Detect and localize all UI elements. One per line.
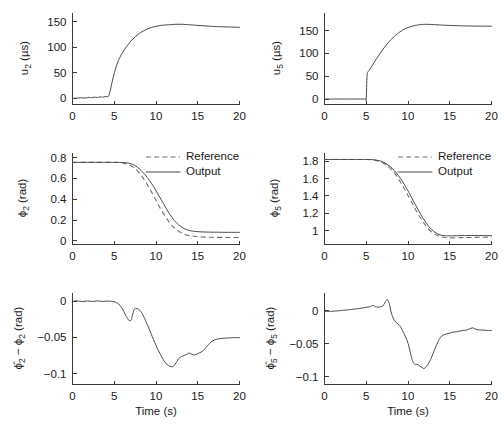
panel-err5-axes [325, 293, 492, 385]
y-ticklabel: 1.6 [303, 173, 319, 185]
panel-u2-curves [73, 24, 240, 98]
x-ticklabel: 15 [443, 110, 456, 122]
panel-phi5: 0510152011.21.41.61.8 ϕ5 (rad) Reference… [252, 144, 504, 276]
y-ticklabel: 0.4 [51, 193, 68, 205]
x-ticklabel: 5 [363, 110, 369, 122]
panel-err2: 051015200−0.05−0.1 ϕ̂2 − ϕ2 (rad) Time (… [0, 284, 252, 428]
panel-err2-svg: 051015200−0.05−0.1 ϕ̂2 − ϕ2 (rad) Time (… [0, 284, 252, 428]
x-ticklabel: 15 [443, 250, 456, 262]
x-ticklabel: 5 [111, 110, 117, 122]
axis-label-u2: u2 (µs) [18, 41, 33, 75]
y-ticklabel: 150 [299, 25, 318, 37]
y-ticklabel: 0 [312, 305, 318, 317]
legend-output-label: Output [438, 165, 473, 177]
panel-u5-ticklabels: 05101520050100150 [299, 25, 498, 122]
series-u5 [325, 24, 492, 100]
x-ticklabel: 10 [402, 390, 415, 402]
y-ticklabel: 1.4 [303, 190, 320, 202]
panel-u2-ticklabels: 05101520050100150 [47, 16, 246, 122]
x-ticklabel: 0 [69, 110, 75, 122]
y-ticklabel: 150 [47, 16, 66, 28]
y-ticklabel: −0.05 [289, 338, 318, 350]
axis-label-phi2: ϕ2 (rad) [16, 179, 31, 218]
series-u2 [73, 24, 240, 98]
x-ticklabel: 0 [69, 390, 75, 402]
panel-phi2-svg: 0510152000.20.40.60.8 ϕ2 (rad) Reference… [0, 144, 252, 276]
figure-canvas: 05101520050100150 u2 (µs) 05101520050100… [0, 0, 504, 428]
panel-err2-ticks [73, 301, 240, 384]
panel-u2-svg: 05101520050100150 u2 (µs) [0, 4, 252, 134]
x-ticklabel: 20 [233, 390, 246, 402]
x-ticklabel: 15 [191, 390, 204, 402]
x-ticklabel: 10 [150, 250, 163, 262]
series-error5 [325, 300, 492, 369]
axis-label-err2: ϕ̂2 − ϕ2 (rad) [12, 306, 27, 369]
panel-phi2: 0510152000.20.40.60.8 ϕ2 (rad) Reference… [0, 144, 252, 276]
x-ticklabel: 0 [321, 250, 327, 262]
panel-u5-curves [325, 24, 492, 100]
x-ticklabel: 5 [363, 250, 369, 262]
axis-label-time: Time (s) [135, 405, 177, 417]
axis-label-err5: ϕ̂5 − ϕ5 (rad) [264, 306, 279, 369]
panel-err5: 051015200−0.05−0.1 ϕ̂5 − ϕ5 (rad) Time (… [252, 284, 504, 428]
y-ticklabel: 1.8 [303, 155, 319, 167]
legend-reference-label: Reference [438, 150, 491, 162]
panel-u5: 05101520050100150 u5 (µs) [252, 4, 504, 134]
x-ticklabel: 15 [191, 250, 204, 262]
panel-err5-curves [325, 300, 492, 369]
panel-err2-ticklabels: 051015200−0.05−0.1 [37, 295, 246, 401]
x-ticklabel: 5 [111, 250, 117, 262]
panel-u2: 05101520050100150 u2 (µs) [0, 4, 252, 134]
x-ticklabel: 20 [233, 110, 246, 122]
axis-label-time: Time (s) [387, 405, 429, 417]
legend-phi5: Reference Output [398, 150, 491, 177]
axis-label-phi5: ϕ5 (rad) [268, 179, 283, 218]
x-ticklabel: 10 [150, 110, 163, 122]
x-ticklabel: 10 [150, 390, 163, 402]
legend-reference-label: Reference [186, 150, 239, 162]
x-ticklabel: 5 [363, 390, 369, 402]
x-ticklabel: 20 [485, 110, 498, 122]
x-ticklabel: 15 [443, 390, 456, 402]
y-ticklabel: 50 [54, 67, 67, 79]
series-error2 [73, 301, 240, 367]
y-ticklabel: 0.6 [51, 172, 67, 184]
y-ticklabel: −0.1 [44, 368, 67, 380]
y-ticklabel: 0 [312, 93, 318, 105]
panel-err2-axes [73, 293, 240, 385]
y-ticklabel: 1 [312, 225, 318, 237]
x-ticklabel: 10 [402, 110, 415, 122]
y-ticklabel: 100 [299, 47, 318, 59]
y-ticklabel: −0.1 [296, 371, 319, 383]
y-ticklabel: 0 [60, 92, 66, 104]
panel-err5-ticks [325, 311, 492, 385]
x-ticklabel: 20 [233, 250, 246, 262]
x-ticklabel: 20 [485, 250, 498, 262]
panel-err5-svg: 051015200−0.05−0.1 ϕ̂5 − ϕ5 (rad) Time (… [252, 284, 504, 428]
x-ticklabel: 5 [111, 390, 117, 402]
panel-u5-svg: 05101520050100150 u5 (µs) [252, 4, 504, 134]
legend-phi2: Reference Output [146, 150, 239, 177]
panel-u2-ticks [73, 22, 240, 105]
x-ticklabel: 0 [321, 390, 327, 402]
panel-phi5-svg: 0510152011.21.41.61.8 ϕ5 (rad) Reference… [252, 144, 504, 276]
y-ticklabel: 0.2 [51, 214, 67, 226]
y-ticklabel: 50 [306, 70, 319, 82]
x-ticklabel: 0 [321, 110, 327, 122]
x-ticklabel: 10 [402, 250, 415, 262]
x-ticklabel: 0 [69, 250, 75, 262]
panel-err2-curves [73, 301, 240, 367]
y-ticklabel: 0.8 [51, 152, 67, 164]
x-ticklabel: 15 [191, 110, 204, 122]
y-ticklabel: 1.2 [303, 207, 319, 219]
panel-u5-ticks [325, 31, 492, 105]
y-ticklabel: 0 [60, 235, 66, 247]
legend-output-label: Output [186, 165, 221, 177]
axis-label-u5: u5 (µs) [270, 41, 285, 75]
y-ticklabel: 100 [47, 41, 66, 53]
y-ticklabel: 0 [60, 295, 66, 307]
y-ticklabel: −0.05 [37, 331, 66, 343]
x-ticklabel: 20 [485, 390, 498, 402]
